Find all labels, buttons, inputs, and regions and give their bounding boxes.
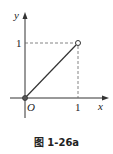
open-endpoint bbox=[76, 41, 81, 46]
x-tick-label: 1 bbox=[75, 102, 81, 113]
x-axis-label: x bbox=[98, 101, 103, 112]
origin-label: O bbox=[27, 102, 35, 113]
segment-line bbox=[25, 45, 76, 98]
y-axis-label: y bbox=[14, 10, 19, 21]
x-axis-arrow-icon bbox=[102, 96, 109, 101]
coordinate-plot bbox=[0, 0, 113, 154]
filled-endpoint bbox=[23, 96, 28, 101]
y-tick-label: 1 bbox=[16, 38, 22, 49]
figure-caption: 图 1-26a bbox=[0, 134, 113, 149]
y-axis-arrow-icon bbox=[23, 12, 28, 19]
